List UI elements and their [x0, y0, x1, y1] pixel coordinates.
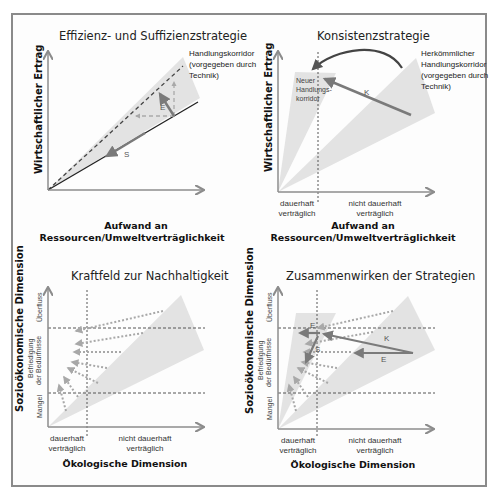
band-label-needs: der Bedürfnisse — [35, 336, 42, 385]
band-label-abundance: Überfluss — [36, 292, 43, 322]
x-axis-label: Ressourcen/Umweltverträglichkeit — [271, 232, 456, 243]
panel-konsistenz: Konsistenzstrategie K Wirtschaftlicher E… — [263, 29, 488, 243]
y-axis-label: Wirtschaftlicher Ertrag — [33, 44, 44, 174]
action-corridor — [48, 57, 200, 190]
zone-label-sustainable: dauerhaft — [280, 199, 315, 208]
zone-label-unsustainable: verträglich — [357, 209, 394, 218]
band-label-needs: Befriedigung — [27, 339, 35, 378]
old-corridor-label: Technik) — [421, 82, 451, 91]
arrow-label-k: K — [364, 88, 370, 97]
panel-kraftfeld: Kraftfeld zur Nachhaltigkeit Sozioökonom… — [14, 245, 229, 469]
arrow-label-k: K — [384, 334, 390, 343]
old-corridor-label: Handlungskorridor — [421, 60, 487, 69]
zone-label-unsustainable: nicht dauerhaft — [119, 434, 173, 443]
band-label-scarcity: Mangel — [36, 395, 44, 418]
panel-title: Konsistenzstrategie — [317, 29, 430, 43]
x-axis-label: Ressourcen/Umweltverträglichkeit — [40, 232, 225, 243]
band-label-scarcity: Mangel — [266, 397, 274, 420]
arrow-label-s: S — [124, 150, 129, 159]
panel-title: Effizienz- und Suffizienzstrategie — [59, 29, 247, 43]
corridor-label: (vorgegeben durch — [189, 60, 256, 69]
new-corridor-label: Handlungs- — [296, 86, 332, 94]
arrow-label-e: E — [160, 103, 165, 112]
x-axis-label: Ökologische Dimension — [291, 459, 416, 470]
zone-label-sustainable: verträglich — [49, 444, 86, 453]
old-corridor-label: Herkömmlicher — [421, 49, 475, 58]
panel-effizienz: Effizienz- und Suffizienzstrategie E S W… — [33, 29, 256, 243]
panel-zusammenwirken: Zusammenwirken der Strategien E S K E So… — [244, 247, 475, 470]
x-axis-label: Ökologische Dimension — [63, 458, 188, 469]
arrow-label-e: E — [381, 355, 386, 364]
band-label-abundance: Überfluss — [266, 292, 273, 322]
new-corridor-label: korridor — [296, 95, 320, 102]
curved-shift-arrow — [313, 50, 402, 69]
corridor-label: Technik) — [189, 71, 219, 80]
band-label-needs: der Bedürfnisse — [265, 338, 272, 387]
arrow-label-e: E — [310, 321, 315, 330]
band-label-needs: Befriedigung — [257, 341, 265, 380]
diagram-canvas: Effizienz- und Suffizienzstrategie E S W… — [0, 0, 498, 499]
zone-label-sustainable: verträglich — [279, 209, 316, 218]
y-axis-label: Sozioökonomische Dimension — [244, 247, 255, 414]
y-axis-label: Wirtschaftlicher Ertrag — [263, 42, 274, 172]
zone-label-unsustainable: nicht dauerhaft — [349, 436, 403, 445]
zone-label-unsustainable: verträglich — [127, 444, 164, 453]
zone-label-sustainable: verträglich — [280, 446, 317, 455]
corridor — [48, 295, 204, 427]
zone-label-sustainable: dauerhaft — [50, 434, 85, 443]
zone-label-unsustainable: verträglich — [357, 446, 394, 455]
arrow-label-s: S — [315, 345, 320, 354]
x-axis-label: Aufwand an — [104, 220, 168, 231]
zone-label-sustainable: dauerhaft — [281, 436, 316, 445]
old-corridor-label: (vorgegeben durch — [421, 71, 488, 80]
new-corridor-label: Neuer — [296, 77, 316, 84]
zone-label-unsustainable: nicht dauerhaft — [349, 199, 403, 208]
panel-title: Kraftfeld zur Nachhaltigkeit — [71, 269, 229, 283]
corridor-label: Handlungskorridor — [189, 49, 255, 58]
panel-title: Zusammenwirken der Strategien — [286, 269, 475, 283]
x-axis-label: Aufwand an — [331, 220, 395, 231]
y-axis-label: Sozioökonomische Dimension — [14, 245, 25, 412]
